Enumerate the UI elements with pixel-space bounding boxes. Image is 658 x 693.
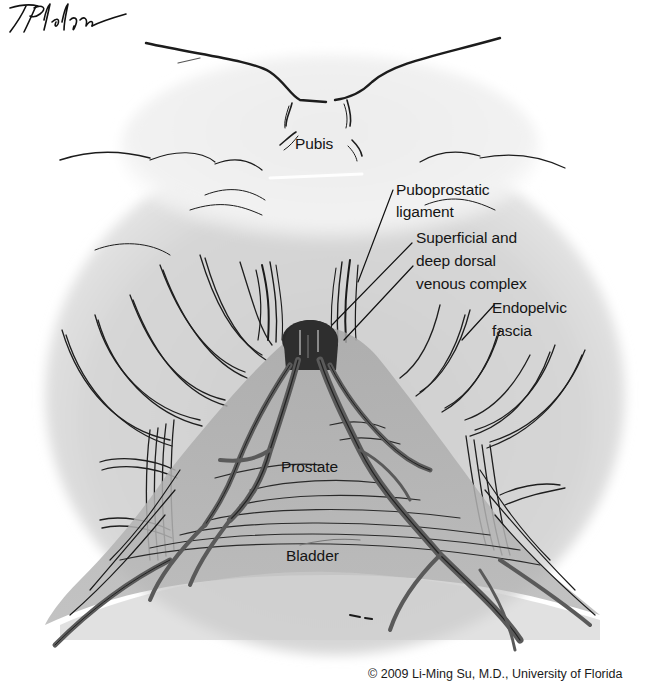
anatomy-illustration: Pubis Puboprostatic ligament Superficial… <box>0 0 658 693</box>
label-bladder: Bladder <box>286 546 339 565</box>
anatomy-drawing <box>0 0 658 693</box>
copyright-notice: © 2009 Li-Ming Su, M.D., University of F… <box>368 667 622 681</box>
label-prostate: Prostate <box>281 457 338 476</box>
artist-signature: T Phelps <box>0 0 130 36</box>
label-puboprostatic-ligament-line1: Puboprostatic <box>396 180 489 199</box>
label-pubis: Pubis <box>295 134 333 153</box>
label-dorsal-venous-complex-line2: deep dorsal <box>416 251 496 270</box>
dorsal-venous-complex <box>282 320 338 370</box>
label-endopelvic-fascia-line1: Endopelvic <box>492 298 567 317</box>
label-dorsal-venous-complex-line1: Superficial and <box>416 228 517 247</box>
label-endopelvic-fascia-line2: fascia <box>492 321 532 340</box>
label-dorsal-venous-complex-line3: venous complex <box>416 274 527 293</box>
label-puboprostatic-ligament-line2: ligament <box>396 202 454 221</box>
